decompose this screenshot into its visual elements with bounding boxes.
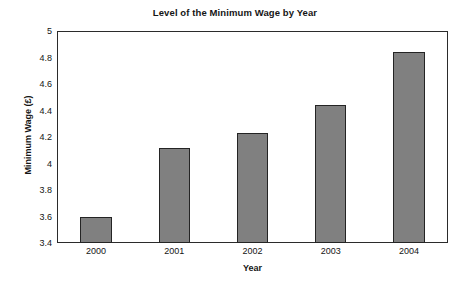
y-tick-label: 3.4 (10, 238, 52, 248)
bar (315, 105, 346, 243)
y-axis-title: Minimum Wage (£) (23, 55, 33, 215)
bars-group (57, 31, 448, 243)
x-tick-label: 2002 (213, 246, 291, 256)
x-axis-title: Year (57, 263, 448, 273)
y-tick-label: 5 (10, 26, 52, 36)
bar (237, 133, 268, 243)
x-tick-label: 2004 (370, 246, 448, 256)
x-tick-label: 2003 (292, 246, 370, 256)
x-tick-label: 2001 (135, 246, 213, 256)
chart-title: Level of the Minimum Wage by Year (0, 7, 470, 18)
bar (80, 217, 111, 244)
bar (159, 148, 190, 243)
x-tick-label: 2000 (57, 246, 135, 256)
x-axis-tick-labels: 20002001200220032004 (57, 246, 448, 260)
bar-chart: Level of the Minimum Wage by Year Minimu… (0, 0, 470, 287)
bar (393, 52, 424, 243)
